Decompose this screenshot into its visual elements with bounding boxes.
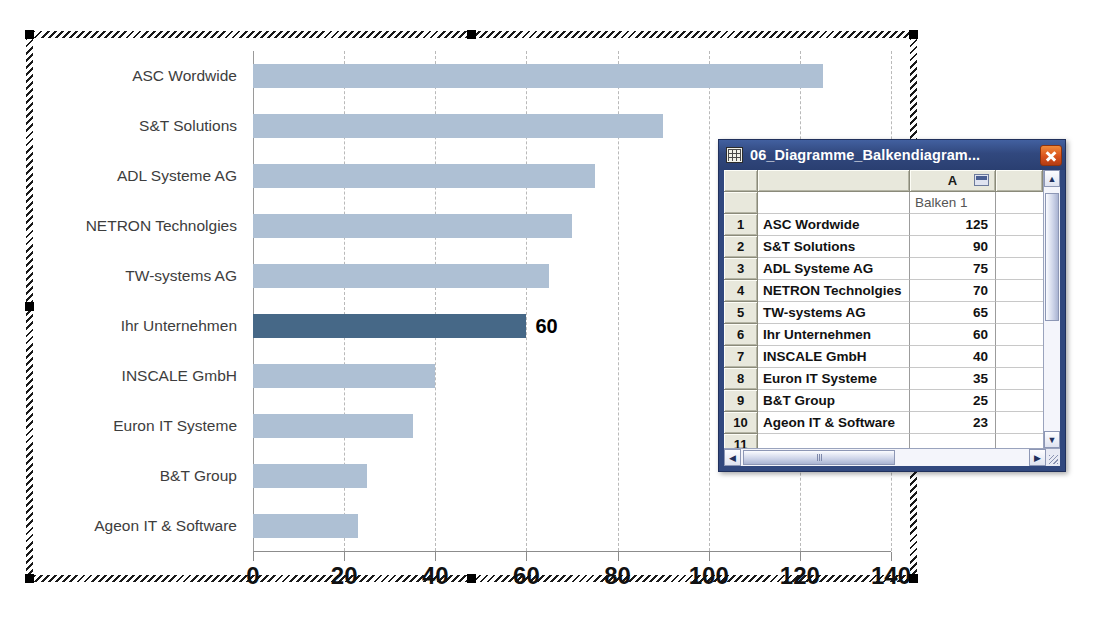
cell-value[interactable]: 70 [910,280,996,302]
row-header[interactable]: 4 [724,280,758,302]
row-header[interactable]: 1 [724,214,758,236]
table-row[interactable]: 8Euron IT Systeme35 [724,368,1043,390]
window-titlebar[interactable]: 06_Diagramme_Balkendiagram... [719,140,1065,170]
column-header-a-label: A [948,173,957,188]
cell-name[interactable]: ADL Systeme AG [758,258,910,280]
bar[interactable] [253,414,413,438]
table-row[interactable]: 9B&T Group25 [724,390,1043,412]
table-row[interactable]: 3ADL Systeme AG75 [724,258,1043,280]
scroll-down-icon[interactable]: ▼ [1044,431,1060,448]
window-title: 06_Diagramme_Balkendiagram... [750,147,1040,163]
selection-handle-top-left[interactable] [25,30,34,39]
x-tick [344,552,345,561]
vertical-scrollbar[interactable]: ▲ ▼ [1043,170,1060,448]
table-row[interactable]: 5TW-systems AG65 [724,302,1043,324]
cell-value[interactable]: 90 [910,236,996,258]
table-row[interactable]: 4NETRON Technolgies70 [724,280,1043,302]
table-row[interactable]: 1ASC Wordwide125 [724,214,1043,236]
spreadsheet-window[interactable]: 06_Diagramme_Balkendiagram... A Balken [718,139,1066,472]
cell-name[interactable]: B&T Group [758,390,910,412]
cell-value[interactable]: 35 [910,368,996,390]
x-tick [435,552,436,561]
selection-handle-middle-left[interactable] [25,302,34,311]
cell-value[interactable]: 60 [910,324,996,346]
bar[interactable] [253,464,367,488]
cell-name[interactable]: Ihr Unternehmen [758,324,910,346]
cell-value[interactable]: 40 [910,346,996,368]
selection-handle-bottom-left[interactable] [25,574,34,583]
cell-tail [996,302,1043,324]
cell-name[interactable] [758,434,910,448]
cell-value[interactable]: 25 [910,390,996,412]
x-tick [800,552,801,561]
select-all-corner[interactable] [724,170,758,192]
category-label: B&T Group [46,451,245,501]
scroll-left-icon[interactable]: ◀ [724,449,741,466]
row-header[interactable]: 8 [724,368,758,390]
cell-name[interactable]: Euron IT Systeme [758,368,910,390]
cell-value[interactable]: 125 [910,214,996,236]
row-header[interactable]: 7 [724,346,758,368]
cell-value[interactable]: 65 [910,302,996,324]
cell-tail [996,412,1043,434]
bar[interactable] [253,164,595,188]
column-header-a[interactable]: A [910,170,996,192]
horizontal-scroll-track[interactable] [741,449,1029,466]
selection-handle-bottom-center[interactable] [467,574,476,583]
row-header[interactable]: 3 [724,258,758,280]
category-label: ADL Systeme AG [46,151,245,201]
scroll-up-icon[interactable]: ▲ [1044,170,1060,187]
cell-value[interactable] [910,434,996,448]
selection-handle-bottom-right[interactable] [909,574,918,583]
table-row[interactable]: 7INSCALE GmbH40 [724,346,1043,368]
x-tick [709,552,710,561]
bar[interactable] [253,364,435,388]
bar[interactable] [253,114,663,138]
bar[interactable] [253,64,823,88]
cell-name[interactable] [758,192,910,214]
cell-series-name[interactable]: Balken 1 [910,192,996,214]
horizontal-scrollbar[interactable]: ◀ ▶ [724,448,1060,466]
row-header[interactable]: 2 [724,236,758,258]
vertical-scroll-thumb[interactable] [1045,193,1059,321]
row-header[interactable]: 10 [724,412,758,434]
spreadsheet-grid[interactable]: A Balken 11ASC Wordwide1252S&T Solutions… [724,170,1043,448]
table-row[interactable]: 2S&T Solutions90 [724,236,1043,258]
horizontal-scroll-thumb[interactable] [743,450,895,465]
cell-name[interactable]: S&T Solutions [758,236,910,258]
cell-value[interactable]: 23 [910,412,996,434]
bar[interactable] [253,514,358,538]
row-header[interactable] [724,192,758,214]
table-row[interactable]: 10Ageon IT & Software23 [724,412,1043,434]
scroll-right-icon[interactable]: ▶ [1029,449,1046,466]
window-body: A Balken 11ASC Wordwide1252S&T Solutions… [724,170,1060,466]
category-label: TW-systems AG [46,251,245,301]
row-header[interactable]: 9 [724,390,758,412]
column-header-b[interactable] [758,170,910,192]
bar[interactable] [253,214,572,238]
grid-wrapper: A Balken 11ASC Wordwide1252S&T Solutions… [724,170,1060,448]
cell-name[interactable]: ASC Wordwide [758,214,910,236]
x-axis-line [253,551,891,561]
resize-grip[interactable] [1046,449,1060,466]
selection-handle-top-right[interactable] [909,30,918,39]
row-header[interactable]: 6 [724,324,758,346]
bar-highlighted[interactable]: 60 [253,314,526,338]
screenshot-root: ASC WordwideS&T SolutionsADL Systeme AGN… [0,0,1109,633]
table-row[interactable]: 6Ihr Unternehmen60 [724,324,1043,346]
row-header[interactable]: 11 [724,434,758,448]
cell-name[interactable]: INSCALE GmbH [758,346,910,368]
cell-name[interactable]: NETRON Technolgies [758,280,910,302]
cell-value[interactable]: 75 [910,258,996,280]
cell-tail [996,368,1043,390]
cell-name[interactable]: Ageon IT & Software [758,412,910,434]
cell-tail [996,280,1043,302]
category-label: Euron IT Systeme [46,401,245,451]
vertical-scroll-track[interactable] [1044,187,1060,431]
close-icon[interactable] [1040,145,1062,166]
table-row[interactable]: 11 [724,434,1043,448]
cell-name[interactable]: TW-systems AG [758,302,910,324]
bar[interactable] [253,264,549,288]
row-header[interactable]: 5 [724,302,758,324]
selection-handle-top-center[interactable] [467,30,476,39]
